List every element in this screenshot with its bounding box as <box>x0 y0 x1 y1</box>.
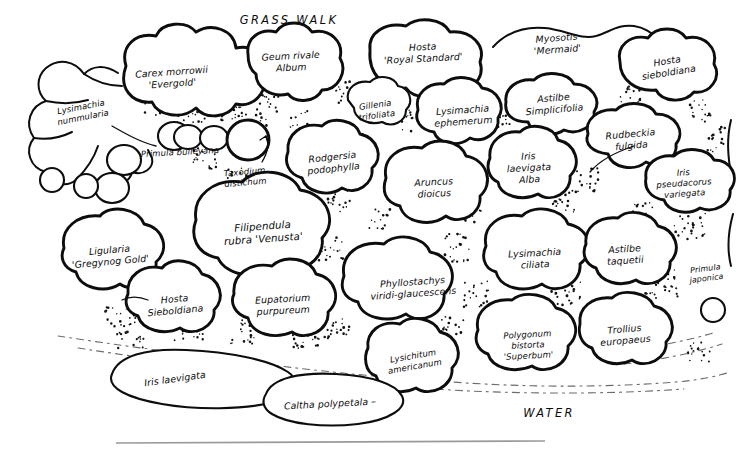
label-water: WATER <box>523 406 575 420</box>
plant-label-myosotis-mermaid: Myosotis'Mermaid' <box>533 30 582 56</box>
plant-label-eupatorium-purpureum: Eupatoriumpurpureum <box>255 291 312 316</box>
plant-label-lysimachia-ephemerum: Lysimachiaephemerum <box>433 102 493 129</box>
plant-label-taxodium-distichum: Taxodiumdistichum <box>223 164 267 188</box>
plant-label-lysimachia-nummularia: Lysimachianummularia <box>54 96 109 126</box>
horizontal-rule <box>116 441 545 443</box>
garden-planting-plan: GRASS WALK WATER LysimachianummulariaCar… <box>0 0 736 454</box>
plant-label-primula-bulleyana: Primula bulleyana <box>141 144 220 158</box>
plant-label-aruncus-dioicus: Aruncusdioicus <box>413 175 454 200</box>
plant-label-astilbe-taquetii: Astilbetaquetii <box>606 241 645 266</box>
plant-label-primula-japonica: Primulajaponica <box>687 262 724 285</box>
label-grass-walk: GRASS WALK <box>240 13 339 27</box>
